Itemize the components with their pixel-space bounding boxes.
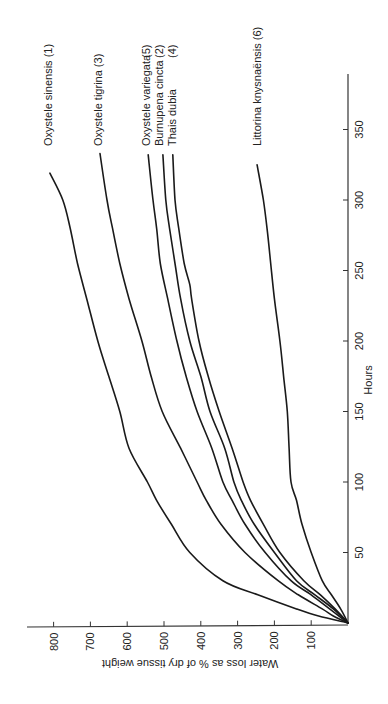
label-burnupena-cincta: Burnupena cincta	[153, 60, 165, 146]
water-loss-tick-label: 700	[84, 632, 96, 650]
curve-thais-dubia	[173, 155, 348, 623]
group-number-2: (2)	[153, 45, 165, 58]
water-loss-tick-label: 600	[121, 632, 133, 650]
water-loss-tick-label: 300	[232, 632, 244, 650]
group-number-5: (5)	[140, 45, 152, 58]
label-oxystele-sinensis: Oxystele sinensis (1)	[42, 44, 54, 146]
group-number-4: (4)	[166, 45, 178, 58]
water-loss-tick-label: 100	[305, 631, 317, 649]
label-thais-dubia: Thais dubia	[166, 88, 178, 146]
water-loss-tick-label: 200	[268, 631, 280, 649]
curve-littorina-knysnaensis	[257, 165, 348, 623]
water-loss-tick-label: 800	[48, 633, 60, 651]
hours-axis-ticks: 50100150200250300350	[343, 120, 365, 558]
hours-tick-label: 100	[353, 473, 365, 491]
water-loss-tick-label: 400	[195, 632, 207, 650]
label-oxystele-tigrina: Oxystele tigrina (3)	[92, 54, 104, 146]
hours-tick-label: 300	[353, 191, 365, 209]
hours-tick-label: 150	[353, 402, 365, 420]
series-curves	[50, 154, 348, 624]
water-loss-axis-title: Water loss as % of dry tissue weight	[102, 658, 278, 670]
hours-tick-label: 50	[353, 546, 365, 558]
label-oxystele-variegata: Oxystele variegata	[140, 54, 152, 146]
hours-tick-label: 250	[353, 261, 365, 279]
water-loss-axis	[27, 625, 348, 627]
label-littorina-knysnaensis: Littorina knysnaënsis (6)	[251, 27, 263, 146]
hours-axis-title: Hours	[362, 365, 374, 395]
hours-tick-label: 350	[353, 120, 365, 138]
curve-oxystele-sinensis	[50, 173, 348, 623]
water-loss-tick-label: 500	[158, 632, 170, 650]
water-loss-chart: 50100150200250300350 1002003004005006007…	[0, 0, 388, 704]
hours-tick-label: 200	[353, 332, 365, 350]
